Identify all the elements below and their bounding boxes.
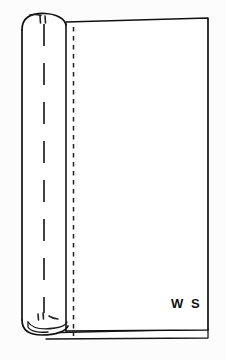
wrong-side-label: W S <box>171 296 202 311</box>
fold-roll-fill <box>22 13 66 336</box>
fabric-fold-diagram: W S <box>0 0 226 360</box>
main-panel-fill <box>66 18 208 331</box>
